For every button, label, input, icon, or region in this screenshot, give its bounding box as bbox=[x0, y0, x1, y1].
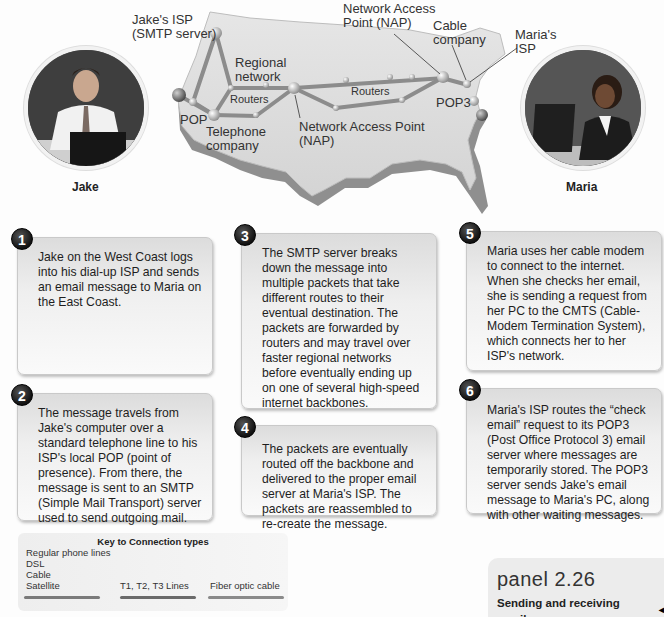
label-nap-east: Network Access Point (NAP) bbox=[343, 2, 435, 30]
node-west-endpoint bbox=[172, 88, 186, 102]
label-regional-network: Regional network bbox=[235, 56, 286, 84]
step-badge-1: 1 bbox=[11, 228, 33, 250]
step-text: The SMTP server breaks down the message … bbox=[262, 246, 428, 411]
node-pop bbox=[189, 98, 197, 106]
node-router bbox=[343, 77, 349, 83]
label-marias-isp: Maria's ISP bbox=[515, 28, 557, 56]
node-router bbox=[228, 85, 234, 91]
node-cable-company bbox=[463, 80, 471, 88]
step-card-4: The packets are eventually routed off th… bbox=[241, 425, 437, 516]
maria-name: Maria bbox=[566, 180, 597, 194]
step-text: Jake on the West Coast logs into his dia… bbox=[38, 250, 204, 310]
label-telephone-company: Telephone company bbox=[206, 125, 266, 153]
step-text: The message travels from Jake's computer… bbox=[38, 406, 204, 526]
label-nap-center: Network Access Point (NAP) bbox=[299, 120, 425, 148]
panel-subtitle: Sending and receiving emails bbox=[497, 595, 637, 617]
connection-key: Key to Connection types Regular phone li… bbox=[18, 533, 288, 611]
key-line-fiber bbox=[208, 596, 284, 599]
step-card-1: Jake on the West Coast logs into his dia… bbox=[17, 237, 213, 375]
node-router bbox=[409, 74, 415, 80]
panel-caption: panel 2.26 Sending and receiving emails … bbox=[488, 558, 664, 617]
node-telephone-company bbox=[208, 109, 220, 121]
jake-photo bbox=[24, 46, 148, 170]
label-pop3: POP3 bbox=[436, 96, 471, 110]
node-marias-isp bbox=[476, 109, 488, 121]
label-cable-company: Cable company bbox=[433, 19, 486, 47]
step-badge-2: 2 bbox=[11, 384, 33, 406]
node-router bbox=[399, 97, 405, 103]
key-line-standard bbox=[24, 596, 100, 599]
step-card-2: The message travels from Jake's computer… bbox=[17, 393, 213, 521]
figure: Jake's ISP (SMTP server) Regional networ… bbox=[0, 0, 664, 617]
node-router bbox=[253, 112, 259, 118]
key-line-t-lines bbox=[120, 596, 196, 599]
step-text: Maria uses her cable modem to connect to… bbox=[487, 244, 653, 364]
step-badge-6: 6 bbox=[459, 379, 481, 401]
step-badge-5: 5 bbox=[459, 222, 481, 244]
key-item-satellite: Satellite bbox=[26, 580, 60, 591]
key-item-regular-phone: Regular phone lines bbox=[26, 547, 111, 558]
step-card-3: The SMTP server breaks down the message … bbox=[241, 233, 437, 409]
key-item-dsl: DSL bbox=[26, 558, 44, 569]
key-item-t-lines: T1, T2, T3 Lines bbox=[120, 580, 189, 591]
key-item-fiber: Fiber optic cable bbox=[210, 580, 280, 591]
step-badge-4: 4 bbox=[234, 416, 256, 438]
maria-photo bbox=[521, 46, 645, 170]
node-router bbox=[333, 105, 339, 111]
node-router bbox=[387, 74, 393, 80]
step-badge-3: 3 bbox=[234, 224, 256, 246]
key-title: Key to Connection types bbox=[18, 536, 288, 547]
page-marker-icon: ◂ bbox=[659, 604, 664, 615]
label-jakes-isp: Jake's ISP (SMTP server) bbox=[132, 13, 216, 41]
jake-name: Jake bbox=[72, 180, 99, 194]
label-routers-west: Routers bbox=[230, 92, 269, 106]
step-text: The packets are eventually routed off th… bbox=[262, 442, 428, 532]
link-telco-south bbox=[214, 115, 256, 116]
panel-title: panel 2.26 bbox=[497, 568, 595, 591]
key-item-cable: Cable bbox=[26, 569, 51, 580]
label-routers-east: Routers bbox=[351, 84, 390, 98]
step-card-5: Maria uses her cable modem to connect to… bbox=[466, 231, 662, 371]
label-pop: POP bbox=[180, 113, 207, 127]
step-text: Maria's ISP routes the “check email” req… bbox=[487, 403, 653, 523]
node-nap-center bbox=[288, 82, 300, 94]
step-card-6: Maria's ISP routes the “check email” req… bbox=[466, 388, 662, 514]
